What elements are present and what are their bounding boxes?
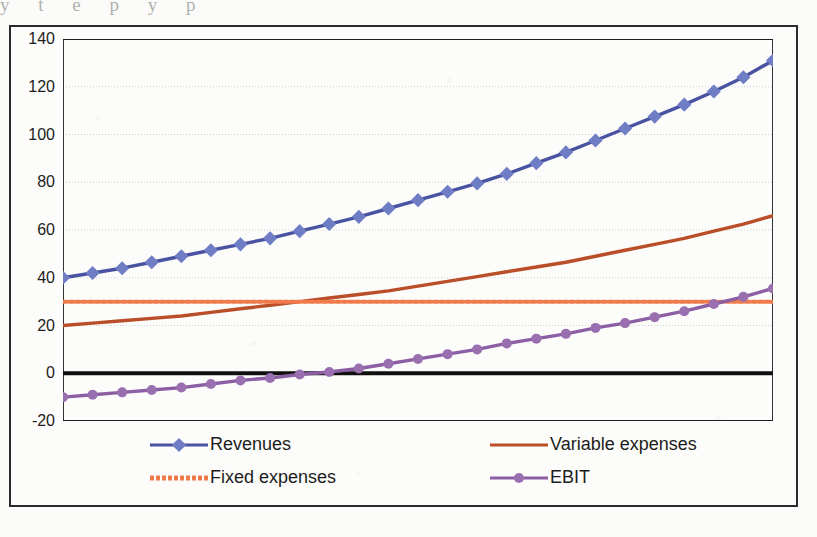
data-point-marker: [411, 193, 425, 207]
legend-label: Variable expenses: [550, 434, 697, 455]
data-point-marker: [738, 292, 748, 302]
data-point-marker: [529, 156, 543, 170]
page-bleed-text: y t e p y p: [0, 0, 817, 16]
legend-circle-marker-icon: [514, 473, 524, 483]
y-axis-tick-labels: 140120100806040200-20: [11, 39, 55, 421]
legend-key-swatch: [490, 470, 548, 486]
data-point-marker: [472, 344, 482, 354]
data-point-marker: [263, 231, 277, 245]
data-point-marker: [588, 133, 602, 147]
data-point-marker: [293, 224, 307, 238]
data-point-marker: [413, 354, 423, 364]
legend-label: Revenues: [210, 434, 291, 455]
y-axis-label: 100: [28, 126, 55, 144]
data-point-marker: [176, 383, 186, 393]
data-point-marker: [470, 176, 484, 190]
data-point-marker: [322, 217, 336, 231]
data-point-marker: [352, 210, 366, 224]
data-point-marker: [561, 329, 571, 339]
legend-item-fixed-expenses[interactable]: Fixed expenses: [150, 467, 490, 488]
series-line-revenues: [63, 60, 773, 277]
data-point-marker: [591, 323, 601, 333]
data-point-marker: [324, 367, 334, 377]
data-point-marker: [63, 392, 68, 402]
data-point-marker: [206, 379, 216, 389]
data-point-marker: [295, 369, 305, 379]
legend-line-icon: [150, 475, 208, 480]
y-axis-label: -20: [32, 412, 55, 430]
data-point-marker: [354, 363, 364, 373]
data-point-marker: [383, 359, 393, 369]
data-point-marker: [265, 373, 275, 383]
legend-label: EBIT: [550, 467, 590, 488]
legend-label: Fixed expenses: [210, 467, 336, 488]
data-point-marker: [650, 312, 660, 322]
legend-item-revenues[interactable]: Revenues: [150, 434, 490, 455]
y-axis-label: 60: [37, 221, 55, 239]
data-point-marker: [531, 334, 541, 344]
data-point-marker: [500, 167, 514, 181]
series-line-variable-expenses: [63, 216, 773, 326]
chart-svg: [63, 39, 773, 421]
legend-key-swatch: [150, 437, 208, 453]
data-point-marker: [174, 249, 188, 263]
legend-line-icon: [490, 443, 548, 446]
legend-diamond-marker-icon: [172, 437, 186, 451]
data-point-marker: [677, 98, 691, 112]
data-point-marker: [115, 261, 129, 275]
data-point-marker: [88, 390, 98, 400]
data-point-marker: [147, 385, 157, 395]
y-axis-label: 80: [37, 173, 55, 191]
data-point-marker: [441, 185, 455, 199]
data-point-marker: [117, 387, 127, 397]
chart-legend: RevenuesVariable expensesFixed expensesE…: [150, 428, 770, 494]
legend-item-ebit[interactable]: EBIT: [490, 467, 770, 488]
data-point-marker: [768, 283, 773, 293]
data-point-marker: [204, 243, 218, 257]
data-point-marker: [559, 145, 573, 159]
data-point-marker: [679, 306, 689, 316]
legend-key-swatch: [490, 437, 548, 453]
data-point-marker: [145, 255, 159, 269]
data-point-marker: [63, 271, 70, 285]
data-point-marker: [233, 237, 247, 251]
legend-key-swatch: [150, 470, 208, 486]
data-point-marker: [620, 318, 630, 328]
data-point-marker: [381, 201, 395, 215]
data-point-marker: [443, 349, 453, 359]
legend-item-variable-expenses[interactable]: Variable expenses: [490, 434, 770, 455]
y-axis-label: 120: [28, 78, 55, 96]
series-line-ebit: [63, 288, 773, 397]
y-axis-label: 140: [28, 30, 55, 48]
data-point-marker: [736, 70, 750, 84]
data-point-marker: [648, 110, 662, 124]
data-point-marker: [236, 375, 246, 385]
data-point-marker: [502, 338, 512, 348]
y-axis-label: 40: [37, 269, 55, 287]
y-axis-label: 20: [37, 317, 55, 335]
data-point-marker: [709, 299, 719, 309]
data-point-marker: [618, 121, 632, 135]
plot-area: [63, 39, 773, 421]
y-axis-label: 0: [46, 364, 55, 382]
